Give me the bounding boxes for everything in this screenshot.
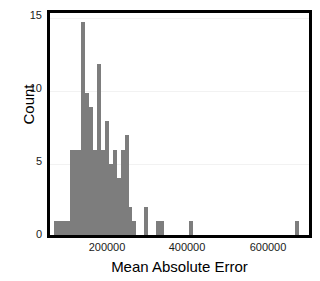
x-axis-label: Mean Absolute Error: [47, 258, 312, 275]
histogram-figure: Count 15 10 5 0 200000 400000 600000 Mea…: [0, 0, 320, 281]
x-axis-ticks: 200000 400000 600000: [0, 0, 320, 281]
x-tick-label: 200000: [89, 241, 126, 253]
x-tick-label: 400000: [169, 241, 206, 253]
x-tick-label: 600000: [250, 241, 287, 253]
